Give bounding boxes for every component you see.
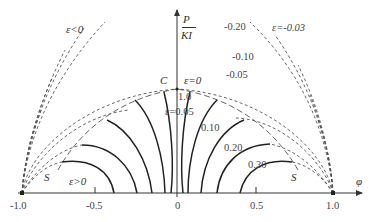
value-label-n020: -0.20 — [224, 22, 246, 33]
value-label-n010: -0.10 — [232, 52, 254, 63]
region-negative-label: ε<0 — [66, 24, 83, 35]
region-positive-label: ε>0 — [69, 176, 86, 187]
x-tick-05: 0.5 — [250, 201, 263, 212]
value-label-010: 0.10 — [201, 123, 219, 134]
value-label-n003: ε=-0.03 — [272, 23, 305, 34]
value-label-eps005: ε=0.05 — [165, 107, 194, 118]
region-zero-label: ε=0 — [184, 75, 201, 86]
value-label-020: 0.20 — [224, 143, 242, 154]
y-axis-label-numerator: P — [183, 14, 190, 25]
point-c-label: C — [160, 75, 167, 86]
x-ticks — [95, 187, 256, 193]
point-s-right-label: S — [291, 172, 297, 183]
point-s-left-label: S — [44, 172, 50, 183]
x-tick-0: 0 — [175, 201, 180, 212]
value-label-c: 1.0 — [178, 92, 191, 103]
x-tick-neg1: -1.0 — [10, 201, 27, 212]
y-axis-label-denominator: KI — [181, 30, 192, 41]
value-label-n005: -0.05 — [226, 70, 248, 81]
dashed-contours-left — [22, 22, 177, 193]
point-right-end — [331, 191, 335, 195]
y-axis-label-fraction-bar — [182, 27, 196, 28]
x-tick-neg05: -0.5 — [86, 201, 103, 212]
x-tick-1: 1.0 — [326, 201, 339, 212]
point-left-end — [20, 191, 24, 195]
value-label-030: 0.30 — [248, 160, 266, 171]
x-axis-label: φ — [356, 176, 362, 187]
